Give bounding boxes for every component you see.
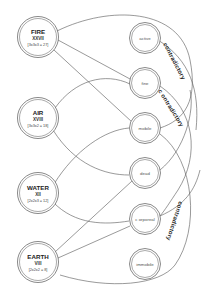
element-name: FIRE	[31, 28, 45, 35]
elements-qualities-diagram: FIRE XXVII [3x3x3 = 27] AIR XVIII [3x3x2…	[0, 0, 206, 291]
quality-label: mobile	[139, 126, 152, 131]
edge-water-corporeal	[53, 202, 129, 223]
quality-corporeal: c orporeal	[130, 204, 161, 235]
edge-earth-dead	[55, 181, 132, 252]
element-water: WATER XII [2x2x3 = 12]	[18, 173, 59, 214]
edge-fire-fine	[58, 40, 130, 79]
edge-earth-corporeal	[58, 226, 130, 258]
quality-label: dead	[140, 171, 150, 176]
element-name: EARTH	[27, 253, 49, 260]
element-name: WATER	[27, 184, 49, 191]
element-name: AIR	[33, 109, 44, 116]
element-formula: [2x2x3 = 12]	[28, 199, 49, 203]
edge-water-mobile	[54, 128, 129, 184]
element-air: AIR XVIII [3x3x2 = 18]	[18, 98, 59, 139]
element-numeral: VIII	[35, 261, 42, 266]
edge-air-dead	[53, 130, 129, 175]
quality-label: immobile	[136, 262, 154, 267]
arc-label-bottom: contradictory	[165, 201, 184, 242]
element-numeral: XVIII	[33, 117, 43, 122]
edge-mobile-outer-arc	[60, 134, 191, 284]
quality-mobile: mobile	[130, 113, 161, 144]
element-numeral: XXVII	[32, 36, 44, 41]
edge-fire-mobile	[54, 50, 132, 122]
element-formula: [3x3x2 = 18]	[28, 124, 49, 128]
quality-immobile: immobile	[130, 249, 161, 280]
connection-lines	[53, 15, 200, 284]
quality-fine: fine	[130, 68, 161, 99]
element-numeral: XII	[35, 192, 41, 197]
quality-dead: dead	[130, 158, 161, 189]
quality-label: c orporeal	[135, 217, 155, 222]
arc-label-top: contradictory	[162, 42, 187, 81]
arc-label-middle: c ontradictory	[157, 88, 185, 128]
quality-label: active	[139, 36, 151, 41]
quality-active: active	[130, 23, 161, 54]
element-formula: [3x3x3 = 27]	[28, 43, 49, 47]
element-earth: EARTH VIII [2x2x2 = 8]	[18, 242, 59, 283]
quality-label: fine	[141, 81, 149, 86]
edge-air-fine	[55, 79, 130, 108]
element-formula: [2x2x2 = 8]	[29, 268, 48, 272]
element-fire: FIRE XXVII [3x3x3 = 27]	[18, 17, 59, 58]
